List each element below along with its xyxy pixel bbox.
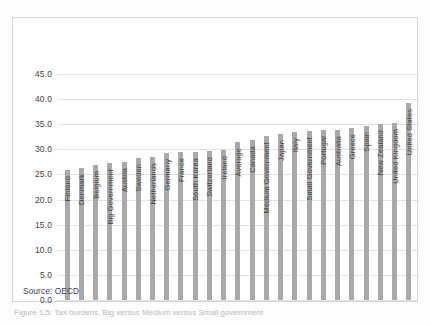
x-axis-category-label: Switzerland bbox=[205, 157, 214, 197]
bar-slot: Germany bbox=[160, 64, 174, 300]
y-axis-tick-label: 15.0 bbox=[35, 220, 52, 230]
bar-slot: Sweden bbox=[131, 64, 145, 300]
bar-slot: Switzerland bbox=[202, 64, 216, 300]
bar-slot: United Kingdom bbox=[387, 64, 401, 300]
x-axis-category-label: New Zealand bbox=[376, 130, 385, 175]
x-axis-category-label: United States bbox=[404, 109, 413, 155]
y-axis-tick-label: 35.0 bbox=[35, 119, 52, 129]
bars-group: FinlandDenmarkBelgiumBig GovernmentAustr… bbox=[57, 64, 419, 300]
bar-slot: Denmark bbox=[74, 64, 88, 300]
x-axis-category-label: Small Government bbox=[305, 137, 314, 201]
bar-slot: Finland bbox=[60, 64, 74, 300]
bar-slot: Australia bbox=[330, 64, 344, 300]
scanned-page-background: 0.05.010.015.020.025.030.035.040.045.0 F… bbox=[0, 0, 431, 325]
bar-slot: Small Government bbox=[302, 64, 316, 300]
x-axis-category-label: Sweden bbox=[134, 164, 143, 192]
bar[interactable] bbox=[292, 132, 297, 300]
x-axis-category-label: Portugal bbox=[319, 136, 328, 165]
bar-slot: Austria bbox=[117, 64, 131, 300]
x-axis-category-label: Germany bbox=[162, 159, 171, 190]
bar-slot: Italy bbox=[288, 64, 302, 300]
source-note: Source: OECD bbox=[23, 286, 79, 296]
x-axis-category-label: Canada bbox=[248, 146, 257, 173]
y-axis-tick-label: 25.0 bbox=[35, 169, 52, 179]
x-axis-category-label: France bbox=[176, 158, 185, 182]
x-axis-category-label: Denmark bbox=[77, 174, 86, 205]
bar-slot: Medium Government bbox=[259, 64, 273, 300]
x-axis-category-label: Average bbox=[233, 148, 242, 176]
bar-slot: Canada bbox=[245, 64, 259, 300]
gridline bbox=[57, 300, 419, 301]
chart-frame: 0.05.010.015.020.025.030.035.040.045.0 F… bbox=[12, 17, 418, 302]
bar-slot: Belgium bbox=[88, 64, 102, 300]
x-axis-category-label: Ireland bbox=[219, 156, 228, 180]
bar-slot: Average bbox=[231, 64, 245, 300]
bar-slot: France bbox=[174, 64, 188, 300]
x-axis-category-label: South Korea bbox=[191, 158, 200, 201]
y-axis-tick-label: 20.0 bbox=[35, 195, 52, 205]
bar-slot: Netherlands bbox=[145, 64, 159, 300]
x-axis-category-label: Belgium bbox=[91, 171, 100, 199]
y-axis-tick-label: 30.0 bbox=[35, 144, 52, 154]
y-axis-tick-label: 40.0 bbox=[35, 94, 52, 104]
bar[interactable] bbox=[364, 126, 369, 300]
x-axis-category-label: Medium Government bbox=[262, 142, 271, 214]
x-axis-category-label: Big Government bbox=[105, 169, 114, 225]
plot-area: 0.05.010.015.020.025.030.035.040.045.0 F… bbox=[57, 64, 419, 300]
figure-caption: Figure 1.5: Tax burdens, Big versus Medi… bbox=[14, 308, 414, 317]
y-axis-tick-label: 0.0 bbox=[40, 295, 52, 305]
x-axis-category-label: Netherlands bbox=[148, 163, 157, 205]
y-axis-tick-label: 10.0 bbox=[35, 245, 52, 255]
bar-slot: New Zealand bbox=[373, 64, 387, 300]
bar-slot: Ireland bbox=[217, 64, 231, 300]
x-axis-category-label: Japan bbox=[276, 140, 285, 161]
y-axis-tick-label: 45.0 bbox=[35, 69, 52, 79]
x-axis-category-label: Greece bbox=[347, 134, 356, 159]
x-axis-category-label: Australia bbox=[333, 136, 342, 166]
x-axis-category-label: Italy bbox=[290, 138, 299, 152]
bar-slot: Big Government bbox=[103, 64, 117, 300]
bar-slot: Greece bbox=[345, 64, 359, 300]
x-axis-category-label: Finland bbox=[63, 176, 72, 201]
bar-slot: South Korea bbox=[188, 64, 202, 300]
bar-slot: United States bbox=[402, 64, 416, 300]
bar-slot: Portugal bbox=[316, 64, 330, 300]
x-axis-category-label: United Kingdom bbox=[390, 129, 399, 184]
bar-slot: Japan bbox=[274, 64, 288, 300]
x-axis-category-label: Austria bbox=[120, 168, 129, 192]
y-axis-tick-label: 5.0 bbox=[40, 270, 52, 280]
bar-slot: Spain bbox=[359, 64, 373, 300]
x-axis-category-label: Spain bbox=[362, 132, 371, 152]
